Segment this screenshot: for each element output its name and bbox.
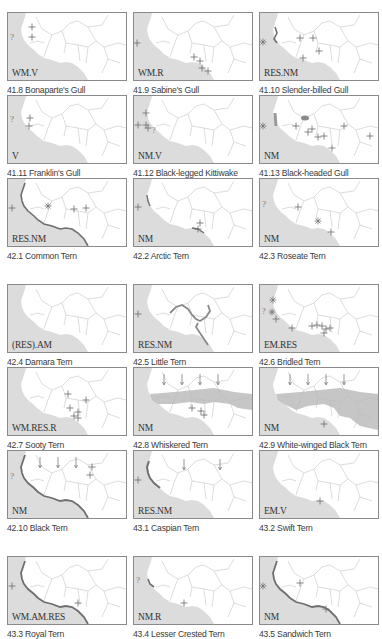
svg-text:?: ? — [262, 199, 266, 209]
map-frame: NM — [259, 556, 379, 625]
status-code: RES.NM — [138, 340, 172, 350]
map-frame: WM.R — [133, 12, 253, 81]
map-frame: RES.NM — [259, 12, 379, 81]
map-frame: EM.V — [259, 450, 379, 519]
status-code: NM — [12, 506, 27, 516]
status-code: RES.NM — [264, 68, 298, 78]
svg-text:?: ? — [10, 32, 14, 42]
map-frame: ? V — [7, 95, 127, 164]
map-frame: NM — [133, 178, 253, 247]
svg-text:?: ? — [10, 114, 14, 124]
map-caption: 42.4 Damara Tern — [7, 357, 72, 367]
status-code: NM — [264, 423, 279, 433]
map-caption: 42.8 Whiskered Tern — [133, 440, 208, 450]
status-code: NM — [138, 234, 153, 244]
map-caption: 42.2 Arctic Tern — [133, 251, 189, 261]
status-code: NM.V — [138, 151, 162, 161]
map-frame: WM.RES.R — [7, 367, 127, 436]
map-caption: 42.10 Black Tern — [7, 523, 68, 533]
map-caption: 43.5 Sandwich Tern — [259, 629, 331, 639]
map-caption: 41.12 Black-legged Kittiwake — [133, 168, 238, 178]
status-code: NM — [138, 423, 153, 433]
svg-text:?: ? — [152, 126, 156, 135]
map-caption: 43.3 Royal Tern — [7, 629, 64, 639]
status-code: (RES).AM — [12, 340, 52, 350]
svg-text:?: ? — [262, 307, 266, 316]
status-code: V — [12, 151, 19, 161]
map-frame: (RES).AM — [7, 284, 127, 353]
status-code: NM — [264, 151, 279, 161]
status-code: NM.R — [138, 612, 161, 622]
map-frame: ? NM — [7, 450, 127, 519]
map-frame: RES.NM — [7, 178, 127, 247]
map-caption: 42.3 Roseate Tern — [259, 251, 326, 261]
map-caption: 43.4 Lesser Crested Tern — [133, 629, 225, 639]
map-frame: NM — [133, 367, 253, 436]
map-frame: ? WM.V — [7, 12, 127, 81]
distribution-map: ? — [8, 96, 126, 163]
map-frame: ? EM.RES — [259, 284, 379, 353]
svg-text:?: ? — [136, 575, 140, 585]
status-code: NM — [264, 234, 279, 244]
map-caption: 42.6 Bridled Tern — [259, 357, 320, 367]
map-caption: 42.5 Little Tern — [133, 357, 186, 367]
map-caption: 42.1 Common Tern — [7, 251, 77, 261]
map-caption: 41.13 Black-headed Gull — [259, 168, 349, 178]
map-frame: ? NM.R — [133, 556, 253, 625]
map-caption: 41.10 Slender-billed Gull — [259, 85, 348, 95]
map-caption: 42.7 Sooty Tern — [7, 440, 64, 450]
map-frame: NM — [259, 95, 379, 164]
map-frame: RES.NM — [133, 450, 253, 519]
status-code: EM.RES — [264, 340, 297, 350]
status-code: NM — [264, 612, 279, 622]
status-code: WM.R — [138, 68, 163, 78]
map-frame: NM — [259, 367, 379, 436]
map-frame: WM.AM.RES — [7, 556, 127, 625]
map-caption: 41.11 Franklin's Gull — [7, 168, 80, 178]
map-caption: 43.1 Caspian Tern — [133, 523, 199, 533]
map-frame: ? NM — [259, 178, 379, 247]
map-caption: 43.2 Swift Tern — [259, 523, 313, 533]
status-code: WM.AM.RES — [12, 612, 65, 622]
map-frame: ? NM.V — [133, 95, 253, 164]
svg-text:?: ? — [10, 471, 14, 481]
map-frame: RES.NM — [133, 284, 253, 353]
map-caption: 42.9 White-winged Black Tern — [259, 440, 367, 450]
map-caption: 41.9 Sabine's Gull — [133, 85, 199, 95]
map-caption: 41.8 Bonaparte's Gull — [7, 85, 85, 95]
status-code: RES.NM — [12, 234, 46, 244]
status-code: WM.RES.R — [12, 423, 56, 433]
status-code: EM.V — [264, 506, 287, 516]
status-code: RES.NM — [138, 506, 172, 516]
status-code: WM.V — [12, 68, 38, 78]
